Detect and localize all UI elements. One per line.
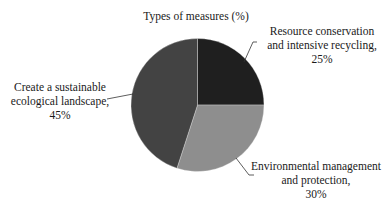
label-line: and protection,	[250, 173, 382, 187]
chart-title: Types of measures (%)	[131, 10, 261, 23]
label-percent: 25%	[256, 52, 388, 66]
label-percent: 30%	[250, 187, 382, 201]
slice-resource-conservation	[198, 39, 265, 106]
data-label-environmental-management: Environmental management and protection,…	[250, 159, 382, 201]
label-percent: 45%	[2, 108, 118, 122]
data-label-resource-conservation: Resource conservation and intensive recy…	[256, 24, 388, 66]
data-label-sustainable-landscape: Create a sustainable ecological landscap…	[2, 80, 118, 122]
pie-slices	[131, 38, 264, 171]
label-line: and intensive recycling,	[256, 38, 388, 52]
label-line: Environmental management	[250, 159, 382, 173]
label-line: Resource conservation	[256, 24, 388, 38]
label-line: Create a sustainable	[2, 80, 118, 94]
label-line: ecological landscape,	[2, 94, 118, 108]
